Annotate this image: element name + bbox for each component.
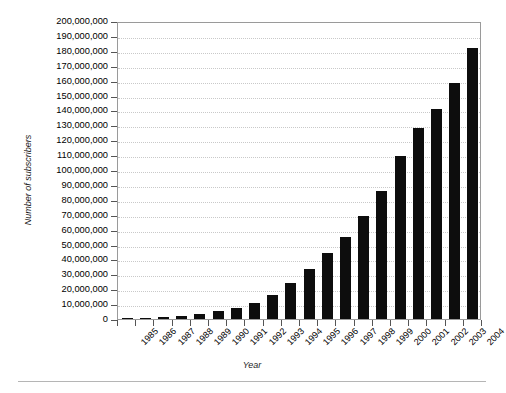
x-axis-tick-label: 1989 [212, 326, 233, 347]
bar [140, 318, 151, 319]
y-axis-tick-label: 190,000,000 [56, 31, 108, 41]
y-axis-tick-label: 200,000,000 [56, 16, 108, 26]
x-axis-tick-label: 1998 [376, 326, 397, 347]
x-axis-tick-label: 1999 [394, 326, 415, 347]
bar [431, 109, 442, 319]
bar [231, 308, 242, 319]
y-axis-tick-label: 40,000,000 [61, 254, 108, 264]
bar [376, 191, 387, 319]
bar [413, 128, 424, 319]
x-axis-tick-label: 1990 [230, 326, 251, 347]
bar [213, 311, 224, 319]
x-axis-tick-label: 1987 [175, 326, 196, 347]
y-axis-tick-label: 10,000,000 [61, 299, 108, 309]
y-axis-tick-label: 80,000,000 [61, 195, 108, 205]
bar [194, 314, 205, 319]
x-axis-tick-label: 2000 [412, 326, 433, 347]
bar [467, 48, 478, 319]
x-axis-tick-label: 2004 [485, 326, 506, 347]
y-axis-tick-label: 170,000,000 [56, 61, 108, 71]
bar [285, 283, 296, 319]
x-axis-tick-label: 1995 [321, 326, 342, 347]
x-axis-tick-label: 1993 [285, 326, 306, 347]
x-axis-tick-label: 1992 [266, 326, 287, 347]
y-axis-tick-label: 130,000,000 [56, 120, 108, 130]
bar [340, 237, 351, 319]
y-axis-tick-label: 60,000,000 [61, 225, 108, 235]
y-axis-tick-label: 180,000,000 [56, 46, 108, 56]
x-axis-tick-label: 1996 [339, 326, 360, 347]
y-axis-tick-label: 110,000,000 [57, 150, 108, 160]
y-axis-tick-label: 140,000,000 [56, 105, 108, 115]
bar [358, 216, 369, 319]
bar [304, 269, 315, 319]
y-axis-tick-label: 0 [103, 314, 108, 324]
x-axis-tick-label: 1997 [357, 326, 378, 347]
bar-series [118, 23, 480, 319]
bar [122, 318, 133, 319]
bar [449, 83, 460, 319]
bar [176, 316, 187, 319]
x-axis-tick-label: 1988 [194, 326, 215, 347]
x-axis-tick-label: 1994 [303, 326, 324, 347]
y-axis-tick-label: 100,000,000 [56, 165, 108, 175]
y-axis-tick-label: 120,000,000 [56, 135, 108, 145]
y-axis-tick-label: 20,000,000 [61, 284, 108, 294]
bar [158, 317, 169, 319]
x-axis-tick-mark [481, 320, 482, 326]
x-axis-tick-label: 1985 [139, 326, 160, 347]
y-axis-tick-label: 70,000,000 [61, 210, 108, 220]
y-axis-tick-label: 30,000,000 [61, 269, 108, 279]
x-axis-title: Year [0, 360, 504, 370]
x-axis-tick-label: 2003 [467, 326, 488, 347]
x-axis-tick-label: 2001 [430, 326, 451, 347]
y-axis-tick-label: 90,000,000 [61, 180, 108, 190]
plot-area [117, 22, 481, 320]
x-axis-tick-label: 2002 [448, 326, 469, 347]
x-axis-tick-label: 1986 [157, 326, 178, 347]
y-axis-tick-label: 50,000,000 [61, 240, 108, 250]
bar [395, 156, 406, 319]
y-axis-ticks: 010,000,00020,000,00030,000,00040,000,00… [0, 0, 117, 342]
y-axis-tick-label: 150,000,000 [56, 91, 108, 101]
bar [267, 295, 278, 319]
bar [249, 303, 260, 319]
bar [322, 253, 333, 319]
y-axis-tick-label: 160,000,000 [56, 76, 108, 86]
bottom-divider [18, 381, 486, 382]
x-axis-tick-label: 1991 [248, 326, 269, 347]
